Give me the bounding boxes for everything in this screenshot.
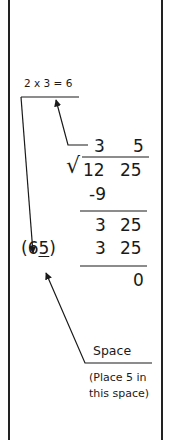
quotient-digit-1: 3 — [94, 136, 105, 156]
arrow-to-divisor-icon — [21, 97, 33, 253]
arrow-to-hint-icon — [56, 100, 88, 145]
product-part-1: 3 — [95, 238, 106, 258]
dividend-pair-1: 12 — [83, 160, 105, 180]
space-label: Space — [93, 343, 131, 358]
remainder-part-2: 25 — [120, 215, 142, 235]
divisor: (65) — [21, 238, 56, 258]
divisor-blank-digit: 5 — [38, 238, 49, 258]
remainder-part-1: 3 — [95, 215, 106, 235]
product-part-2: 25 — [120, 238, 142, 258]
radical-icon: √ — [66, 154, 80, 178]
hint-text: 2 x 3 = 6 — [24, 77, 72, 89]
subtract-9: -9 — [89, 184, 106, 204]
dividend-pair-2: 25 — [120, 160, 142, 180]
space-note-line-2: this space) — [89, 387, 149, 401]
space-note-line-1: (Place 5 in — [89, 371, 147, 385]
final-remainder: 0 — [133, 270, 144, 290]
quotient-digit-2: 5 — [133, 136, 144, 156]
